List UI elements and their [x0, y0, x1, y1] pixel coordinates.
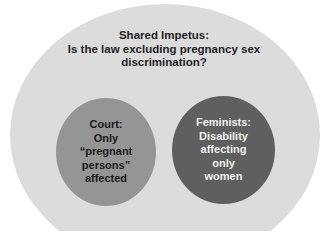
- court-line: Court:: [90, 118, 123, 132]
- shared-impetus-title: Shared Impetus: Is the law excluding pre…: [40, 29, 288, 70]
- title-line: Is the law excluding pregnancy sex: [40, 43, 288, 57]
- title-line: discrimination?: [40, 56, 288, 70]
- feminists-circle: Feminists: Disability affecting only wom…: [172, 96, 275, 204]
- feminists-line: Disability: [199, 130, 248, 144]
- feminists-line: Feminists:: [196, 116, 251, 130]
- feminists-line: women: [205, 170, 243, 184]
- feminists-line: affecting: [201, 143, 247, 157]
- court-circle: Court: Only “pregnant persons” affected: [56, 98, 156, 206]
- court-line: persons”: [82, 159, 130, 173]
- title-line: Shared Impetus:: [40, 29, 288, 43]
- court-line: Only: [94, 132, 118, 146]
- court-line: affected: [85, 172, 127, 186]
- feminists-line: only: [212, 157, 235, 171]
- court-line: “pregnant: [80, 145, 133, 159]
